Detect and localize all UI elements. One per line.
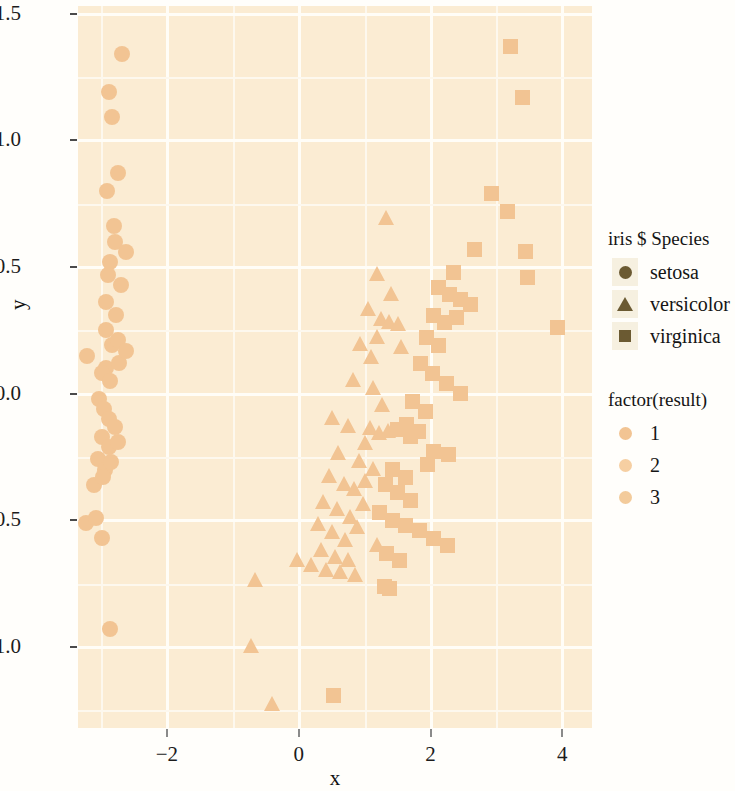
data-point-setosa <box>86 477 102 493</box>
data-point-virginica <box>326 688 341 703</box>
x-tick-label: 2 <box>401 742 461 767</box>
gridline-horizontal <box>78 266 592 269</box>
legend-result-items: 123 <box>612 417 707 513</box>
legend-key-circle-icon <box>612 451 638 479</box>
data-point-versicolor <box>318 562 334 577</box>
legend-species-items: setosaversicolorvirginica <box>612 256 730 352</box>
legend-species-title: iris $ Species <box>608 228 730 250</box>
data-point-virginica <box>411 424 426 439</box>
x-tick-label: 4 <box>532 742 592 767</box>
data-point-versicolor <box>360 301 376 316</box>
gridline-horizontal <box>78 393 592 396</box>
legend-key-circle-icon <box>612 258 638 286</box>
y-tick-label: 1.0 <box>0 127 21 152</box>
data-point-setosa <box>101 84 117 100</box>
y-tick-mark <box>70 519 77 521</box>
gridline-horizontal <box>78 519 592 522</box>
data-point-setosa <box>78 515 94 531</box>
data-point-virginica <box>390 422 405 437</box>
data-point-virginica <box>440 538 455 553</box>
y-tick-mark <box>70 13 77 15</box>
data-point-virginica <box>439 376 454 391</box>
data-point-virginica <box>467 242 482 257</box>
triangle-icon <box>617 297 633 311</box>
data-point-virginica <box>403 493 418 508</box>
data-point-versicolor <box>378 210 394 225</box>
data-point-versicolor <box>327 549 343 564</box>
data-point-virginica <box>449 310 464 325</box>
data-point-setosa <box>113 277 129 293</box>
gridline-vertical-minor <box>365 6 367 728</box>
data-point-versicolor <box>315 494 331 509</box>
legend-item-1[interactable]: 1 <box>612 417 707 449</box>
data-point-setosa <box>102 373 118 389</box>
data-point-virginica <box>403 429 418 444</box>
data-point-versicolor <box>324 524 340 539</box>
data-point-virginica <box>463 297 478 312</box>
data-point-setosa <box>97 462 113 478</box>
gridline-horizontal-minor <box>78 457 592 459</box>
x-tick-mark <box>298 729 300 737</box>
x-axis-label: x <box>0 766 670 791</box>
y-tick-mark <box>70 139 77 141</box>
plot-panel <box>78 6 592 728</box>
data-point-virginica <box>390 485 405 500</box>
scatter-plot-figure: x y iris $ Species setosaversicolorvirgi… <box>0 0 735 791</box>
x-tick-label: 0 <box>269 742 329 767</box>
data-point-versicolor <box>380 423 396 438</box>
legend-item-versicolor[interactable]: versicolor <box>612 288 730 320</box>
data-point-virginica <box>385 462 400 477</box>
data-point-versicolor <box>324 410 340 425</box>
data-point-versicolor <box>355 496 371 511</box>
legend-item-2[interactable]: 2 <box>612 449 707 481</box>
data-point-virginica <box>503 39 518 54</box>
legend-item-virginica[interactable]: virginica <box>612 320 730 352</box>
data-point-virginica <box>518 244 533 259</box>
gridline-vertical-minor <box>496 6 498 728</box>
data-point-setosa <box>111 355 127 371</box>
data-point-virginica <box>431 338 446 353</box>
data-point-setosa <box>107 234 123 250</box>
legend-item-label: 3 <box>650 486 660 509</box>
data-point-virginica <box>515 90 530 105</box>
gridline-horizontal-minor <box>78 584 592 586</box>
data-point-versicolor <box>336 476 352 491</box>
data-point-versicolor <box>337 532 353 547</box>
data-point-setosa <box>98 294 114 310</box>
y-axis-label: y <box>6 300 31 311</box>
circle-icon <box>619 266 632 279</box>
x-tick-mark <box>430 729 432 737</box>
x-tick-mark <box>166 729 168 737</box>
circle-icon <box>619 459 632 472</box>
legend-item-3[interactable]: 3 <box>612 481 707 513</box>
y-tick-label: −1.0 <box>0 634 21 659</box>
data-point-versicolor <box>373 311 389 326</box>
data-point-virginica <box>453 292 468 307</box>
data-point-setosa <box>101 439 117 455</box>
legend-result-title: factor(result) <box>608 389 707 411</box>
y-tick-label: 1.5 <box>0 1 21 26</box>
data-point-setosa <box>102 621 118 637</box>
gridline-horizontal-minor <box>78 710 592 712</box>
data-point-versicolor <box>313 542 329 557</box>
data-point-virginica <box>392 553 407 568</box>
data-point-virginica <box>405 394 420 409</box>
gridline-horizontal-minor <box>78 330 592 332</box>
legend-item-setosa[interactable]: setosa <box>612 256 730 288</box>
data-point-versicolor <box>383 286 399 301</box>
legend-item-label: 2 <box>650 454 660 477</box>
circle-icon <box>619 491 632 504</box>
data-point-virginica <box>426 531 441 546</box>
data-point-virginica <box>372 505 387 520</box>
y-tick-mark <box>70 646 77 648</box>
data-point-versicolor <box>345 372 361 387</box>
data-point-virginica <box>441 447 456 462</box>
data-point-setosa <box>104 337 120 353</box>
legend-key-circle-icon <box>612 483 638 511</box>
data-point-setosa <box>108 307 124 323</box>
data-point-versicolor <box>264 696 280 711</box>
gridline-horizontal <box>78 139 592 142</box>
legend-key-circle-icon <box>612 419 638 447</box>
data-point-virginica <box>398 470 413 485</box>
legend-item-label: 1 <box>650 422 660 445</box>
